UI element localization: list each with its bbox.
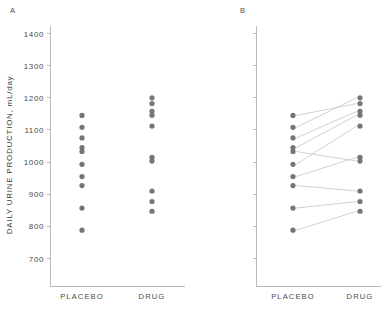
data-point-placebo-5 [290,149,295,154]
data-point-placebo-6 [79,162,84,167]
data-point-placebo-2 [290,125,295,130]
y-tick-label: 800 [29,222,44,231]
data-point-placebo-7 [79,174,84,179]
panel-letter-a: A [10,6,16,15]
data-point-placebo-8 [290,183,295,188]
y-tick-label: 1100 [24,126,44,135]
y-tick-label: 700 [29,255,44,264]
data-point-drug-5 [149,123,154,128]
data-point-drug-2 [149,101,154,106]
data-point-placebo-5 [79,149,84,154]
y-axis-title: DAILY URINE PRODUCTION, mL/day [5,76,14,235]
data-point-placebo-3 [290,135,295,140]
x-axis-label-placebo: PLACEBO [271,292,315,301]
data-point-placebo-10 [79,228,84,233]
data-point-placebo-8 [79,183,84,188]
y-tick-label: 900 [29,190,44,199]
data-point-drug-5 [357,123,362,128]
data-point-placebo-7 [290,174,295,179]
urine-production-figure: A70080090010001100120013001400PLACEBODRU… [0,0,385,329]
y-tick-label: 1400 [24,30,44,39]
data-point-placebo-10 [290,228,295,233]
data-point-drug-4 [149,113,154,118]
x-axis-label-drug: DRUG [139,292,166,301]
x-axis-label-drug: DRUG [347,292,374,301]
y-tick-label: 1000 [24,158,44,167]
figure-background [0,0,385,329]
data-point-drug-10 [357,209,362,214]
data-point-drug-2 [357,101,362,106]
data-point-drug-1 [357,95,362,100]
data-point-drug-4 [357,113,362,118]
data-point-drug-7 [357,159,362,164]
data-point-placebo-1 [290,113,295,118]
data-point-drug-1 [149,95,154,100]
data-point-drug-8 [357,188,362,193]
data-point-placebo-6 [290,162,295,167]
data-point-placebo-1 [79,113,84,118]
data-point-drug-9 [357,199,362,204]
data-point-drug-9 [149,199,154,204]
data-point-drug-8 [149,188,154,193]
data-point-placebo-9 [79,205,84,210]
x-axis-label-placebo: PLACEBO [60,292,104,301]
data-point-placebo-2 [79,125,84,130]
data-point-placebo-3 [79,135,84,140]
data-point-placebo-9 [290,205,295,210]
data-point-drug-7 [149,159,154,164]
y-tick-label: 1200 [24,94,44,103]
y-tick-label: 1300 [24,62,44,71]
panel-letter-b: B [240,6,246,15]
data-point-drug-10 [149,209,154,214]
